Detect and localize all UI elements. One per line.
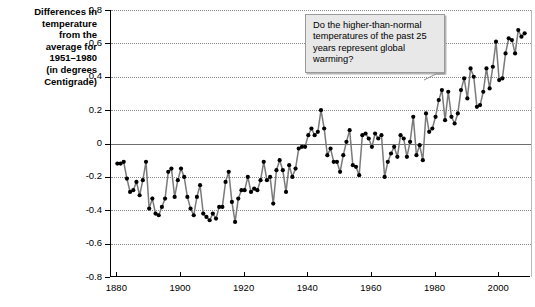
data-point [188,206,192,210]
data-point [348,128,352,132]
data-point [131,188,135,192]
data-point [411,115,415,119]
x-axis-tick [498,272,499,277]
data-point [516,28,520,32]
y-axis-tick-label: 0 [62,137,102,148]
x-axis-tick-label: 1940 [287,282,327,293]
data-point [284,190,288,194]
data-point [278,158,282,162]
data-point [328,146,332,150]
data-point [223,180,227,184]
data-point [481,90,485,94]
y-axis-tick [105,210,110,211]
data-point [338,170,342,174]
data-point [462,76,466,80]
y-axis-tick-label: -0.2 [62,170,102,181]
data-point [255,188,259,192]
x-axis-tick [116,272,117,277]
data-point [386,160,390,164]
data-point [160,205,164,209]
data-point [316,130,320,134]
data-point [472,75,476,79]
data-point [147,206,151,210]
data-point [430,126,434,130]
x-axis-tick-label: 1900 [160,282,200,293]
data-point [274,168,278,172]
data-point [519,35,523,39]
data-point [491,65,495,69]
data-point [179,166,183,170]
data-point [510,38,514,42]
y-axis-tick [105,10,110,11]
x-axis-tick [244,272,245,277]
data-point [211,211,215,215]
data-point [468,66,472,70]
data-point [313,133,317,137]
data-point [271,201,275,205]
data-point [185,195,189,199]
data-point [150,196,154,200]
data-point [379,133,383,137]
data-point [325,153,329,157]
data-point [246,175,250,179]
y-axis-tick [105,144,110,145]
annotation-callout: Do the higher-than-normal temperatures o… [305,14,445,73]
data-point [287,163,291,167]
data-point [198,183,202,187]
data-point [500,76,504,80]
y-axis-tick-label: 0.2 [62,104,102,115]
data-point [465,96,469,100]
data-point [488,86,492,90]
data-point [376,136,380,140]
data-point [478,103,482,107]
x-axis-tick-label: 1980 [415,282,455,293]
data-point [249,190,253,194]
data-point [363,131,367,135]
x-axis-tick [180,272,181,277]
data-point [201,211,205,215]
data-point [392,145,396,149]
x-axis-tick [371,272,372,277]
data-point [418,143,422,147]
data-point [402,136,406,140]
data-point [303,145,307,149]
y-axis-tick [105,244,110,245]
y-axis-tick-label: -0.6 [62,237,102,248]
annotation-text: Do the higher-than-normal temperatures o… [313,20,427,64]
data-point [398,133,402,137]
data-point [214,216,218,220]
y-axis-title-line: temperature [0,18,97,30]
plot-right-edge [531,10,532,277]
data-point [367,136,371,140]
data-point [446,90,450,94]
data-point [166,170,170,174]
data-point [208,218,212,222]
data-point [122,160,126,164]
data-point [513,51,517,55]
data-point [236,196,240,200]
data-point [503,51,507,55]
data-point [319,108,323,112]
data-point [433,115,437,119]
data-point [157,213,161,217]
data-point [414,153,418,157]
x-axis-tick-label: 1920 [224,282,264,293]
data-point [243,188,247,192]
data-point [141,178,145,182]
x-axis-tick [307,272,308,277]
y-axis-tick-label: 0.8 [62,4,102,15]
data-point [354,165,358,169]
data-point [523,31,527,35]
data-point [395,155,399,159]
data-point [176,178,180,182]
data-point [405,155,409,159]
data-point [204,215,208,219]
data-point [144,160,148,164]
data-point [437,98,441,102]
data-point [440,88,444,92]
data-point [293,166,297,170]
data-point [373,131,377,135]
y-axis-tick [105,77,110,78]
data-point [125,176,129,180]
data-point [230,200,234,204]
